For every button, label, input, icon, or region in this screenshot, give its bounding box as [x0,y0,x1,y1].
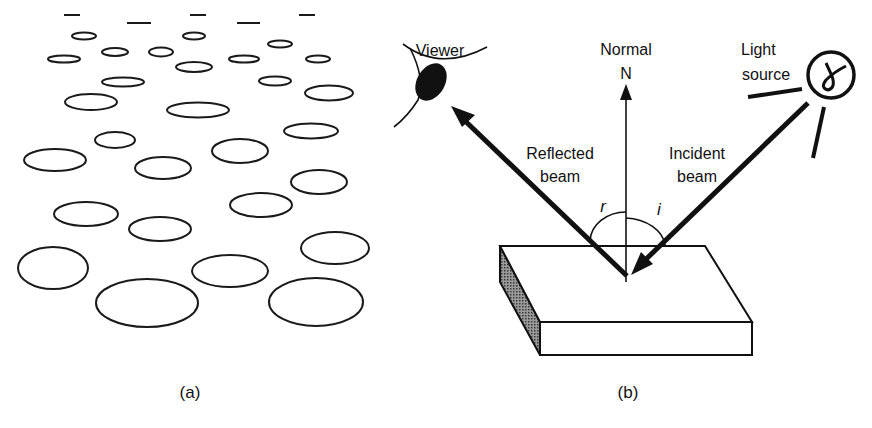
caption-a: (a) [180,383,201,402]
perspective-ellipse [268,41,292,48]
normal-symbol: N [620,65,632,82]
perspective-ellipse [176,62,212,72]
perspective-ellipse [192,255,268,287]
perspective-ellipse [301,232,369,264]
perspective-ellipse [284,124,338,139]
normal-label: Normal [600,41,652,58]
angle-r-arc [590,212,626,241]
figure-canvas: (a) [0,0,872,428]
light-source-label-line2: source [742,66,790,83]
perspective-ellipse [259,77,291,86]
perspective-ellipse [65,94,117,110]
reflected-beam-label-line2: beam [540,168,580,185]
figure: (a) [0,0,872,428]
perspective-ellipse [229,56,259,63]
perspective-ellipse [135,157,191,179]
incident-beam-arrow [631,103,808,275]
panel-a-ellipse-field [18,15,369,327]
perspective-ellipse [102,78,144,87]
perspective-ellipse [291,170,347,194]
perspective-ellipse [230,193,292,217]
perspective-ellipse [212,139,268,163]
incident-beam-label-line1: Incident [669,145,726,162]
angle-i-arc [626,218,665,245]
perspective-ellipse [24,149,86,171]
panel-b-reflection-diagram: Viewer Normal N Light source Reflected b… [394,41,854,355]
perspective-ellipse [167,103,229,118]
perspective-ellipse [54,202,118,226]
perspective-ellipse [95,132,135,148]
incident-beam-label-line2: beam [677,168,717,185]
angle-i-label: i [657,200,662,219]
perspective-ellipse [72,33,96,40]
perspective-ellipse [306,56,330,63]
caption-b: (b) [618,383,639,402]
block-front-face [540,322,752,355]
perspective-ellipse [183,33,205,40]
perspective-ellipse [18,247,88,289]
perspective-ellipse [305,86,353,101]
perspective-ellipse [269,278,363,326]
reflected-beam-label-line1: Reflected [526,145,594,162]
normal-arrowhead [620,84,632,100]
viewer-label: Viewer [416,42,465,59]
light-source-label-line1: Light [741,41,776,58]
perspective-ellipse [149,48,173,57]
perspective-ellipse [96,279,198,327]
perspective-ellipse [129,217,191,241]
angle-r-label: r [600,197,607,216]
perspective-ellipse [102,48,128,56]
perspective-ellipse [48,56,80,63]
